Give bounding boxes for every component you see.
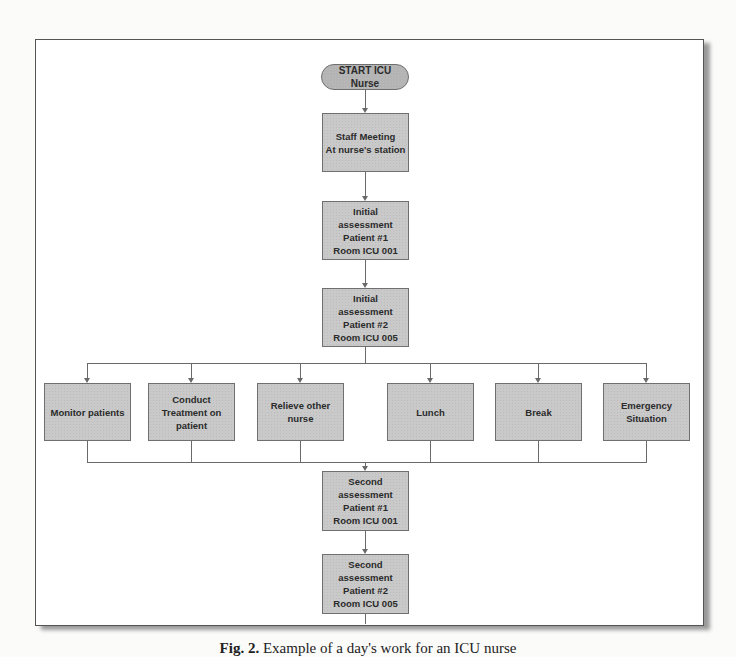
merge-bus <box>87 462 647 463</box>
flowchart: START ICU Nurse Staff Meeting At nurse's… <box>0 0 736 657</box>
split-bus <box>87 363 647 364</box>
connector <box>646 441 647 462</box>
branch-monitor-patients: Monitor patients <box>44 383 131 441</box>
connector <box>430 363 431 378</box>
connector <box>646 363 647 378</box>
branch-relieve-other-nurse: Relieve other nurse <box>257 383 344 441</box>
connector <box>538 441 539 462</box>
connector <box>87 363 88 378</box>
connector <box>191 363 192 378</box>
connector <box>365 531 366 549</box>
connector <box>538 363 539 378</box>
connector <box>87 441 88 462</box>
connector <box>365 347 366 363</box>
figure-label: Fig. 2. <box>220 640 260 656</box>
branch-conduct-treatment: Conduct Treatment on patient <box>148 383 235 441</box>
connector <box>365 260 366 283</box>
figure-caption: Fig. 2. Example of a day's work for an I… <box>0 640 736 657</box>
branch-lunch: Lunch <box>387 383 474 441</box>
step-staff-meeting: Staff Meeting At nurse's station <box>322 113 409 172</box>
step-second-assessment-patient-2: Second assessment Patient #2 Room ICU 00… <box>322 554 409 614</box>
step-initial-assessment-patient-1: Initial assessment Patient #1 Room ICU 0… <box>322 201 409 260</box>
start-node: START ICU Nurse <box>321 64 409 90</box>
connector <box>191 441 192 462</box>
connector <box>300 441 301 462</box>
step-initial-assessment-patient-2: Initial assessment Patient #2 Room ICU 0… <box>322 288 409 347</box>
connector <box>365 614 366 624</box>
caption-text: Example of a day's work for an ICU nurse <box>263 640 516 656</box>
branch-emergency-situation: Emergency Situation <box>603 383 690 441</box>
connector <box>365 90 366 108</box>
connector <box>365 172 366 196</box>
branch-break: Break <box>495 383 582 441</box>
step-second-assessment-patient-1: Second assessment Patient #1 Room ICU 00… <box>322 471 409 531</box>
connector <box>300 363 301 378</box>
connector <box>430 441 431 462</box>
